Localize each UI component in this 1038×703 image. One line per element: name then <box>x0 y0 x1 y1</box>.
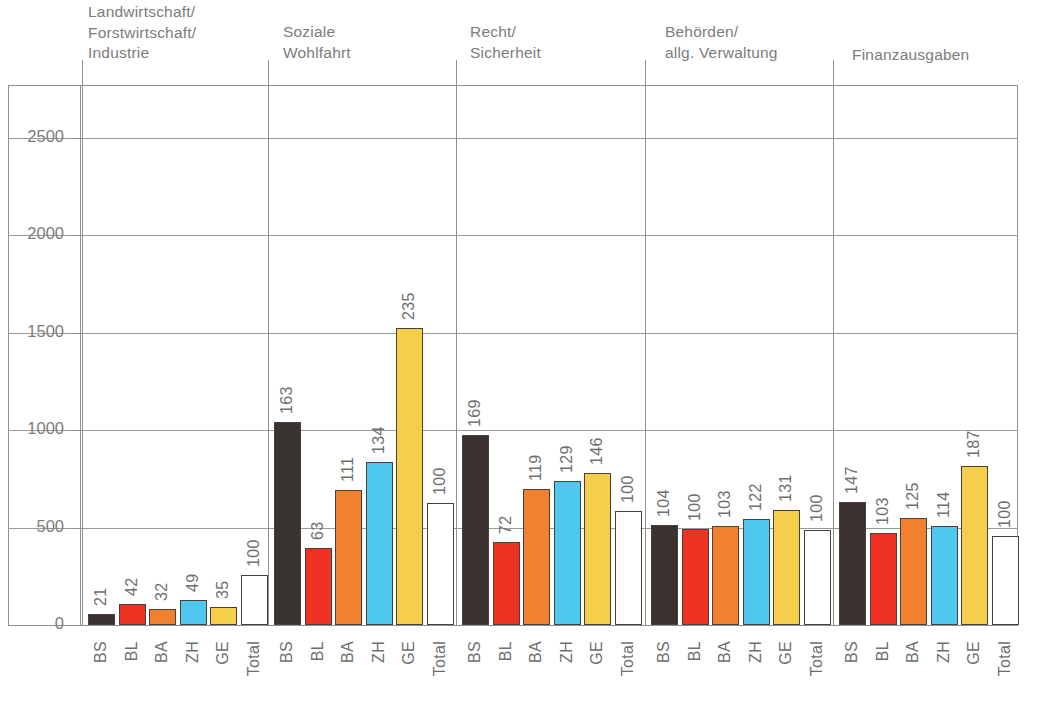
bar-zh-g4[interactable] <box>743 519 770 625</box>
bar-value-label: 100 <box>245 529 263 567</box>
bar-value-label: 103 <box>716 480 734 518</box>
x-axis-label-ge: GE <box>777 641 795 665</box>
bar-value-label: 146 <box>588 427 606 465</box>
bar-value-label: 63 <box>309 502 327 540</box>
bar-value-label: 114 <box>935 480 953 518</box>
bar-total-g4[interactable] <box>804 530 831 625</box>
x-axis-label-bs: BS <box>92 641 110 663</box>
bar-value-label: 100 <box>619 465 637 503</box>
x-axis-label-bl: BL <box>686 641 704 661</box>
bar-value-label: 134 <box>370 416 388 454</box>
x-axis-label-ge: GE <box>588 641 606 665</box>
bars-layer: 21BS42BL32BA49ZH35GE100Total163BS63BL111… <box>0 0 1038 703</box>
x-axis-label-ba: BA <box>339 641 357 663</box>
x-axis-label-ge: GE <box>214 641 232 665</box>
bar-value-label: 35 <box>214 561 232 599</box>
bar-value-label: 49 <box>184 554 202 592</box>
x-axis-label-ba: BA <box>527 641 545 663</box>
x-axis-label-bs: BS <box>466 641 484 663</box>
bar-value-label: 100 <box>431 457 449 495</box>
bar-total-g1[interactable] <box>241 575 268 625</box>
bar-value-label: 125 <box>904 472 922 510</box>
bar-zh-g3[interactable] <box>554 481 581 625</box>
bar-ba-g4[interactable] <box>712 526 739 625</box>
bar-value-label: 21 <box>92 568 110 606</box>
bar-value-label: 119 <box>527 443 545 481</box>
x-axis-label-bs: BS <box>655 641 673 663</box>
bar-total-g2[interactable] <box>427 503 454 625</box>
bar-bs-g5[interactable] <box>839 502 866 625</box>
bar-value-label: 131 <box>777 464 795 502</box>
x-axis-label-zh: ZH <box>558 641 576 663</box>
bar-value-label: 32 <box>153 563 171 601</box>
bar-value-label: 100 <box>996 490 1014 528</box>
x-axis-label-bl: BL <box>874 641 892 661</box>
bar-value-label: 103 <box>874 487 892 525</box>
x-axis-label-total: Total <box>619 641 637 676</box>
x-axis-label-total: Total <box>431 641 449 676</box>
bar-total-g3[interactable] <box>615 511 642 625</box>
bar-zh-g2[interactable] <box>366 462 393 625</box>
bar-ge-g1[interactable] <box>210 607 237 625</box>
bar-bl-g3[interactable] <box>493 542 520 625</box>
bar-ba-g3[interactable] <box>523 489 550 625</box>
x-axis-label-bs: BS <box>278 641 296 663</box>
bar-ba-g1[interactable] <box>149 609 176 625</box>
x-axis-label-zh: ZH <box>184 641 202 663</box>
bar-value-label: 187 <box>965 420 983 458</box>
bar-ge-g4[interactable] <box>773 510 800 625</box>
bar-value-label: 111 <box>339 444 357 482</box>
bar-total-g5[interactable] <box>992 536 1019 625</box>
x-axis-label-bl: BL <box>123 641 141 661</box>
bar-chart: Landwirtschaft/ Forstwirtschaft/ Industr… <box>0 0 1038 703</box>
bar-value-label: 104 <box>655 479 673 517</box>
x-axis-label-ba: BA <box>904 641 922 663</box>
bar-bl-g4[interactable] <box>682 529 709 625</box>
bar-value-label: 72 <box>497 496 515 534</box>
x-axis-label-total: Total <box>245 641 263 676</box>
bar-value-label: 163 <box>278 376 296 414</box>
bar-value-label: 129 <box>558 435 576 473</box>
bar-zh-g1[interactable] <box>180 600 207 625</box>
bar-value-label: 235 <box>400 282 418 320</box>
bar-bs-g4[interactable] <box>651 525 678 625</box>
bar-bs-g3[interactable] <box>462 435 489 625</box>
bar-value-label: 42 <box>123 558 141 596</box>
x-axis-label-ge: GE <box>965 641 983 665</box>
bar-bl-g2[interactable] <box>305 548 332 625</box>
x-axis-label-zh: ZH <box>370 641 388 663</box>
bar-bs-g2[interactable] <box>274 422 301 625</box>
bar-value-label: 147 <box>843 456 861 494</box>
bar-ba-g2[interactable] <box>335 490 362 625</box>
bar-value-label: 169 <box>466 389 484 427</box>
x-axis-label-bl: BL <box>497 641 515 661</box>
x-axis-label-zh: ZH <box>935 641 953 663</box>
bar-value-label: 100 <box>686 483 704 521</box>
x-axis-label-ba: BA <box>716 641 734 663</box>
x-axis-label-ge: GE <box>400 641 418 665</box>
bar-ge-g2[interactable] <box>396 328 423 625</box>
bar-value-label: 100 <box>808 484 826 522</box>
x-axis-label-bs: BS <box>843 641 861 663</box>
bar-ge-g5[interactable] <box>961 466 988 625</box>
x-axis-label-ba: BA <box>153 641 171 663</box>
x-axis-label-bl: BL <box>309 641 327 661</box>
bar-value-label: 122 <box>747 473 765 511</box>
x-axis-label-total: Total <box>808 641 826 676</box>
bar-zh-g5[interactable] <box>931 526 958 625</box>
x-axis-label-total: Total <box>996 641 1014 676</box>
bar-ba-g5[interactable] <box>900 518 927 625</box>
bar-ge-g3[interactable] <box>584 473 611 625</box>
bar-bl-g1[interactable] <box>119 604 146 625</box>
x-axis-label-zh: ZH <box>747 641 765 663</box>
bar-bl-g5[interactable] <box>870 533 897 625</box>
bar-bs-g1[interactable] <box>88 614 115 625</box>
